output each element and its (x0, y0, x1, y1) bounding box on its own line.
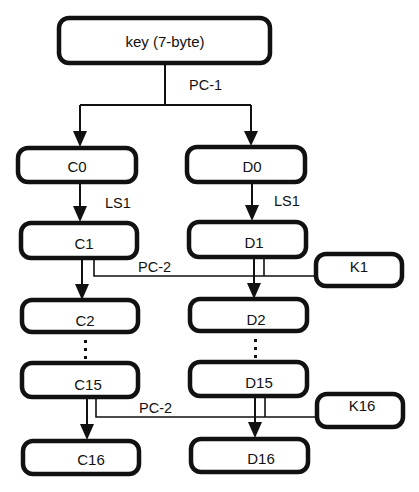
node-c0-label: C0 (67, 158, 86, 175)
node-c2: C2 (22, 300, 138, 332)
node-k16-label: K16 (349, 397, 376, 414)
edge-label-pc2-top: PC-2 (138, 259, 171, 275)
node-c16-label: C16 (77, 451, 105, 468)
node-d0: D0 (187, 147, 305, 182)
node-c2-label: C2 (75, 312, 94, 329)
node-d1-label: D1 (244, 234, 263, 251)
edge-label-ls1-right: LS1 (274, 193, 300, 209)
node-d16: D16 (191, 439, 308, 472)
node-d15: D15 (190, 362, 307, 396)
ellipsis-left (84, 340, 87, 359)
node-d16-label: D16 (247, 450, 275, 467)
edge-label-ls1-left: LS1 (105, 195, 131, 211)
edge-label-pc1: PC-1 (189, 77, 222, 93)
node-d0-label: D0 (242, 158, 261, 175)
node-k1-label: K1 (350, 258, 368, 275)
ellipsis-right (254, 339, 257, 358)
node-key-label: key (7-byte) (125, 33, 204, 50)
node-key: key (7-byte) (59, 18, 270, 63)
edge-label-pc2-bottom: PC-2 (139, 400, 172, 416)
node-k16: K16 (317, 394, 403, 427)
node-d2-label: D2 (246, 311, 265, 328)
node-c1-label: C1 (74, 235, 93, 252)
node-k1: K1 (316, 254, 402, 286)
node-c16: C16 (23, 441, 139, 474)
node-d2: D2 (190, 299, 307, 331)
node-d1: D1 (189, 222, 306, 257)
node-c0: C0 (18, 148, 136, 182)
node-c1: C1 (21, 223, 137, 258)
node-c15-label: C15 (74, 376, 102, 393)
des-key-schedule-diagram: key (7-byte) C0 D0 C1 D1 K1 C2 D2 C15 D1… (0, 0, 419, 492)
node-d15-label: D15 (245, 374, 273, 391)
node-c15: C15 (22, 363, 138, 397)
